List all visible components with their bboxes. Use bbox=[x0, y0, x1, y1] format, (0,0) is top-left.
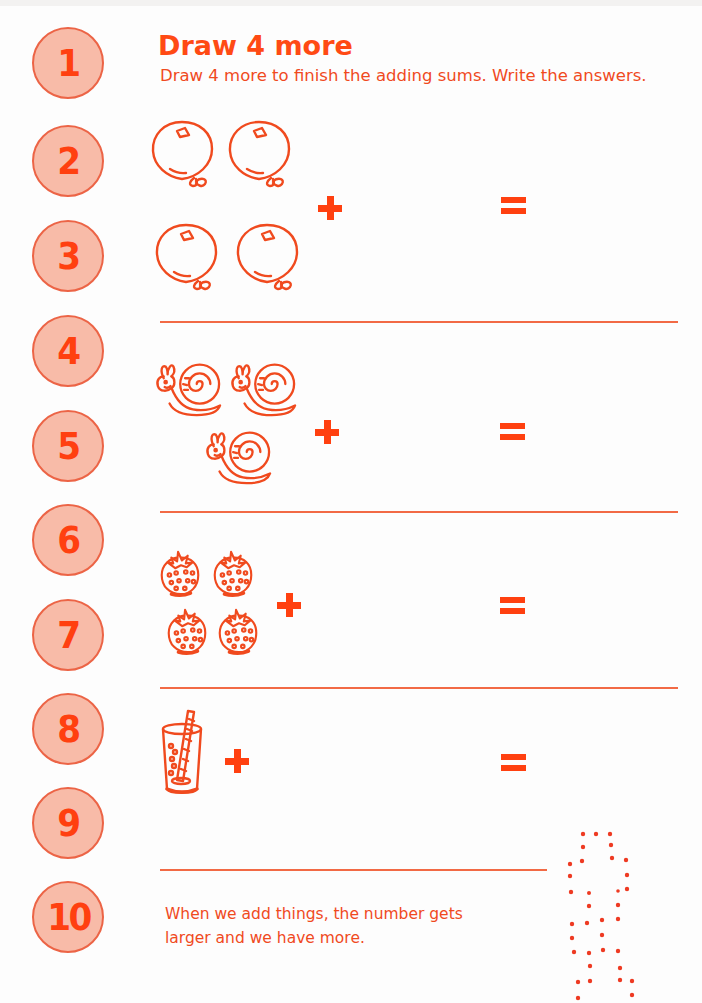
dotted-tracing-path bbox=[0, 0, 702, 1003]
